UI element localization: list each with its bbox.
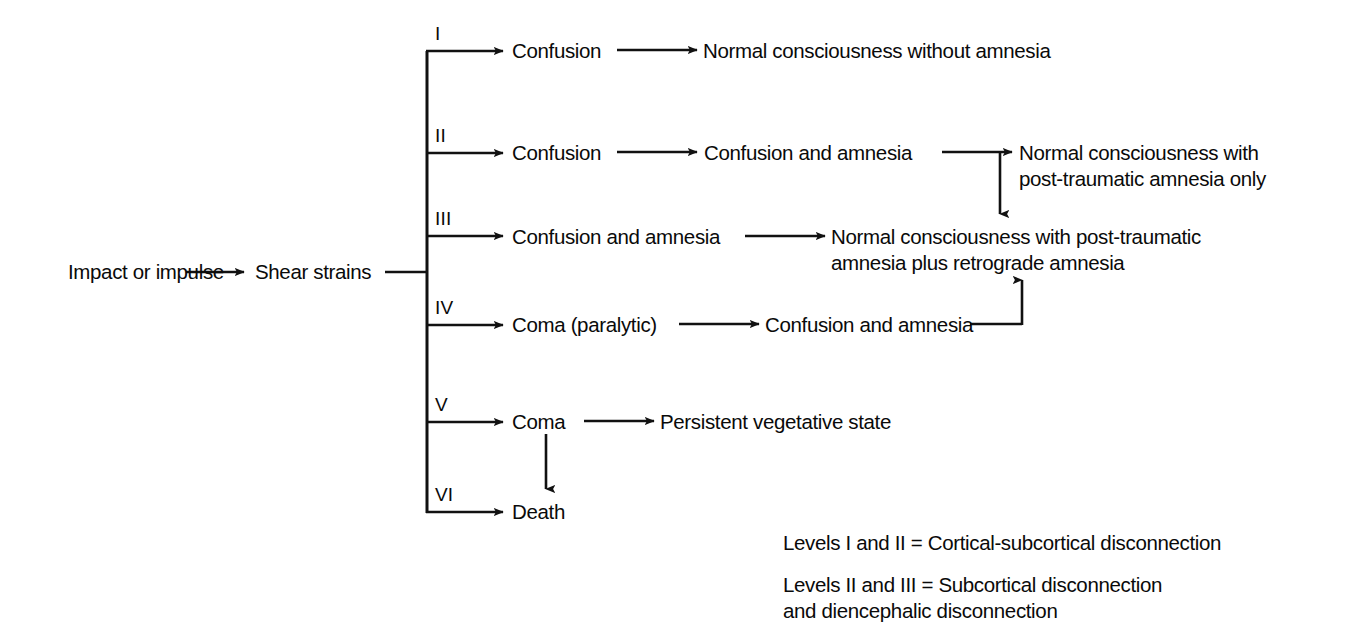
node-l2-outcome: Normal consciousness with post-traumatic…: [1019, 140, 1266, 192]
flow-diagram: Impact or impulse Shear strains I II III…: [0, 0, 1345, 633]
node-l1-confusion: Confusion: [512, 38, 601, 64]
node-shear-strains: Shear strains: [255, 259, 371, 285]
node-l1-outcome: Normal consciousness without amnesia: [703, 38, 1050, 64]
legend-line-1: Levels I and II = Cortical-subcortical d…: [783, 530, 1221, 556]
node-l5-coma: Coma: [512, 409, 565, 435]
node-l2-confusion: Confusion: [512, 140, 601, 166]
node-impact-or-impulse: Impact or impulse: [68, 259, 224, 285]
node-l3-confusion-amnesia: Confusion and amnesia: [512, 224, 720, 250]
level-numeral-1: I: [435, 24, 440, 44]
level-numeral-6: VI: [435, 485, 453, 505]
level-numeral-4: IV: [435, 298, 453, 318]
node-l4-confusion-amnesia: Confusion and amnesia: [765, 312, 973, 338]
node-l3-outcome: Normal consciousness with post-traumatic…: [831, 224, 1201, 276]
level-numeral-3: III: [435, 209, 451, 229]
level-numeral-5: V: [435, 395, 448, 415]
legend-line-2: Levels II and III = Subcortical disconne…: [783, 572, 1162, 624]
level-numeral-2: II: [435, 126, 446, 146]
node-l2-confusion-amnesia: Confusion and amnesia: [704, 140, 912, 166]
node-l4-coma-paralytic: Coma (paralytic): [512, 312, 657, 338]
node-l5-persistent-vegetative-state: Persistent vegetative state: [660, 409, 891, 435]
node-l6-death: Death: [512, 499, 565, 525]
